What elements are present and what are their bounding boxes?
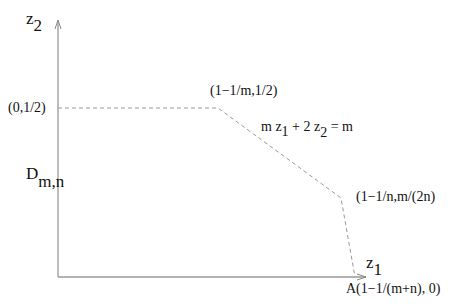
y-axis-label-main: z [26,9,34,28]
y-axis-label-sub: 2 [34,16,43,35]
equation-part-1: m z [261,119,282,134]
point-label-p2: (1−1/n,m/(2n) [356,190,435,204]
region-label-sub: m,n [38,172,64,191]
constraint-equation: m z1 + 2 z2 = m [261,120,353,134]
diagram-canvas: z2 z1 (0,1/2) (1−1/m,1/2) (1−1/n,m/(2n) … [0,0,455,308]
equation-part-2: + 2 z [289,119,321,134]
diagram-svg [0,0,455,308]
x-axis-label: z1 [366,254,382,271]
region-label-main: D [26,164,38,183]
x-axis-label-sub: 1 [374,260,383,279]
point-label-p3: A(1−1/(m+n), 0) [346,282,440,296]
region-label: Dm,n [26,165,64,182]
point-label-p0: (0,1/2) [8,101,46,115]
equation-sub-2: 2 [320,125,327,140]
x-axis-label-main: z [366,253,374,272]
y-axis-label: z2 [26,10,42,27]
point-label-p1: (1−1/m,1/2) [210,84,277,98]
equation-sub-1: 1 [282,124,289,139]
equation-part-3: = m [327,119,353,134]
